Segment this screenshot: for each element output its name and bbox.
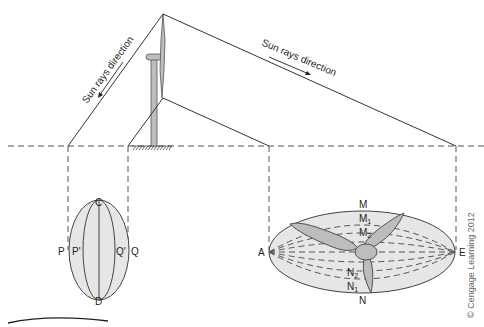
decorative-swoosh [8,318,108,323]
hub [355,244,377,260]
sun-rays-label-right: Sun rays direction [260,37,338,78]
label-Q-prime: Q' [116,246,126,257]
label-Q: Q [131,246,139,257]
sun-rays-label-left: Sun rays direction [80,34,136,105]
ray-right-top [163,14,456,146]
ray-left-bottom [128,98,163,146]
rotor-edge-on [160,14,165,98]
label-M: M [359,199,367,210]
label-N: N [359,295,366,306]
label-D: D [95,296,102,307]
wind-turbine-shadow-diagram: Sun rays direction Sun rays direction C … [0,0,484,327]
copyright-text: © Cengage Learning 2012 [466,212,476,318]
label-P: P [58,246,65,257]
ray-left-top [68,14,163,146]
diagram-svg: Sun rays direction Sun rays direction C … [0,0,484,327]
label-E: E [459,247,466,258]
label-A: A [258,247,265,258]
turbine-tower [151,58,157,146]
label-P-prime: P' [72,246,81,257]
ray-right-bottom [163,98,269,146]
label-C: C [95,197,102,208]
ground-hatching [132,146,172,150]
